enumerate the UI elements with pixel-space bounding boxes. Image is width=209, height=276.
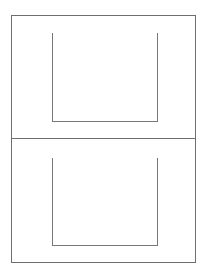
bottom-panel-u-bracket — [52, 158, 158, 246]
panel-divider — [11, 138, 196, 139]
top-panel-u-bracket — [52, 33, 158, 122]
